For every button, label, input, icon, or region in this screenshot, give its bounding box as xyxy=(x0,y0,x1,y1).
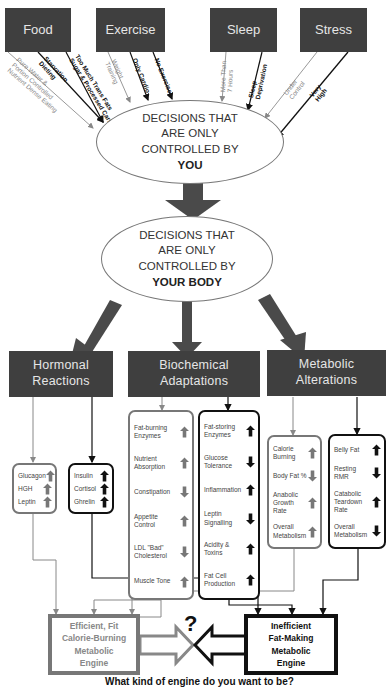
panel-item: Acidity & Toxins xyxy=(204,541,255,557)
engine-good-line4: Engine xyxy=(80,657,108,669)
ellipse-you-line2: ARE ONLY xyxy=(161,126,218,142)
category-hormonal-line2: Reactions xyxy=(32,374,89,390)
panel-item: Leptin xyxy=(18,496,52,508)
panel-hormonal-good: GlucagonHGHLeptin xyxy=(12,463,57,514)
panel-item: Fat-storing Enzymes xyxy=(204,423,255,439)
panel-item-label: Insulin xyxy=(74,472,100,480)
panel-item-label: Resting RMR xyxy=(334,465,372,481)
category-biochemical: Biochemical Adaptations xyxy=(128,351,260,397)
arrow-down-icon xyxy=(246,513,255,525)
panel-hormonal-bad: InsulinCortisolGhrelin xyxy=(68,463,114,514)
ellipse-body-emphasis: YOUR BODY xyxy=(152,275,222,291)
panel-item-label: Body Fat % xyxy=(273,472,308,480)
panel-item: Inflammation xyxy=(204,484,255,496)
panel-item: Overall Metabolism xyxy=(273,523,317,539)
panel-item-label: HGH xyxy=(18,485,43,493)
engine-bad-line3: Metabolic xyxy=(271,645,310,657)
panel-item: Anabolic Growth Rate xyxy=(273,491,317,515)
caption: What kind of engine do you want to be? xyxy=(105,676,294,687)
panel-biochem-bad: Fat-storing EnzymesGlucose ToleranceInfl… xyxy=(198,410,260,600)
ellipse-you-line3: CONTROLLED BY xyxy=(141,142,238,158)
category-biochemical-line1: Biochemical xyxy=(159,358,229,374)
choice-sleep-good: More Than 7 Hours xyxy=(219,61,234,93)
panel-item: Leptin Signalling xyxy=(204,510,255,526)
arrow-up-icon xyxy=(43,483,52,495)
panel-item: Muscle Tone xyxy=(134,576,189,588)
arrow-up-icon xyxy=(246,574,255,586)
engine-good-line1: Efficient, Fit xyxy=(70,620,119,632)
factor-food-label: Food xyxy=(23,22,53,38)
panel-item-label: Calorie Burning xyxy=(273,445,308,461)
panel-item: Calorie Burning xyxy=(273,445,317,461)
panel-metabolic-good: Calorie BurningBody Fat %Anabolic Growth… xyxy=(267,435,322,549)
panel-item-label: Nutrient Absorption xyxy=(134,455,180,471)
arrow-up-icon xyxy=(43,496,52,508)
arrow-up-icon xyxy=(100,483,109,495)
panel-item-label: Cortisol xyxy=(74,485,100,493)
engine-efficient: Efficient, Fit Calorie-Burning Metabolic… xyxy=(48,614,140,675)
panel-item-label: Belly Fat xyxy=(334,446,372,454)
category-biochemical-line2: Adaptations xyxy=(160,374,228,390)
panel-biochem-good: Fat-burning EnzymesNutrient AbsorptionCo… xyxy=(128,410,194,600)
panel-item-label: Catabolic Teardown Rate xyxy=(334,490,372,514)
panel-item: Belly Fat xyxy=(334,444,381,456)
panel-item-label: LDL "Bad" Cholesterol xyxy=(134,544,180,560)
panel-item: Insulin xyxy=(74,470,109,482)
arrow-down-icon xyxy=(246,456,255,468)
panel-item: Nutrient Absorption xyxy=(134,455,189,471)
arrow-up-icon xyxy=(100,470,109,482)
arrow-up-icon xyxy=(308,526,317,538)
arrow-up-icon xyxy=(372,496,381,508)
question-mark: ? xyxy=(184,611,197,637)
engine-good-line3: Metabolic xyxy=(74,645,113,657)
panel-item-label: Anabolic Growth Rate xyxy=(273,491,308,515)
panel-item-label: Muscle Tone xyxy=(134,577,180,585)
factor-sleep: Sleep xyxy=(210,8,277,52)
panel-item-label: Fat-burning Enzymes xyxy=(134,424,180,440)
arrow-down-icon xyxy=(308,470,317,482)
panel-item-label: Leptin xyxy=(18,498,43,506)
ellipse-body-line3: CONTROLLED BY xyxy=(138,259,235,275)
panel-item: HGH xyxy=(18,483,52,495)
arrow-up-icon xyxy=(100,496,109,508)
panel-item: Body Fat % xyxy=(273,470,317,482)
arrow-up-icon xyxy=(246,425,255,437)
arrow-up-icon xyxy=(180,426,189,438)
arrow-up-icon xyxy=(180,576,189,588)
panel-metabolic-bad: Belly FatResting RMRCatabolic Teardown R… xyxy=(328,434,386,549)
choice-label: 7 Hours xyxy=(226,61,234,93)
engine-bad-line2: Fat-Making xyxy=(269,632,314,644)
arrow-down-icon xyxy=(372,467,381,479)
arrow-down-icon xyxy=(180,486,189,498)
arrow-down-icon xyxy=(372,525,381,537)
ellipse-body-line1: DECISIONS THAT xyxy=(139,228,234,244)
panel-item-label: Fat Cell Production xyxy=(204,572,246,588)
category-hormonal: Hormonal Reactions xyxy=(9,351,113,397)
panel-item: Appetite Control xyxy=(134,513,189,529)
panel-item: Fat Cell Production xyxy=(204,572,255,588)
panel-item-label: Glucose Tolerance xyxy=(204,454,246,470)
panel-item: Cortisol xyxy=(74,483,109,495)
ellipse-you-line1: DECISIONS THAT xyxy=(142,111,237,127)
panel-item-label: Overall Metabolism xyxy=(334,523,372,539)
panel-item-label: Leptin Signalling xyxy=(204,510,246,526)
panel-item-label: Constipation xyxy=(134,488,180,496)
panel-item-label: Inflammation xyxy=(204,486,246,494)
panel-item-label: Acidity & Toxins xyxy=(204,541,246,557)
factor-exercise-label: Exercise xyxy=(106,22,156,38)
ellipse-controlled-by-body: DECISIONS THAT ARE ONLY CONTROLLED BY YO… xyxy=(101,216,273,302)
panel-item-label: Glucagon xyxy=(18,472,46,480)
panel-item: LDL "Bad" Cholesterol xyxy=(134,544,189,560)
ellipse-controlled-by-you: DECISIONS THAT ARE ONLY CONTROLLED BY YO… xyxy=(96,100,284,184)
arrow-down-icon xyxy=(180,546,189,558)
engine-inefficient: Inefficient Fat-Making Metabolic Engine xyxy=(244,614,338,675)
panel-item: Glucose Tolerance xyxy=(204,454,255,470)
panel-item-label: Appetite Control xyxy=(134,513,180,529)
ellipse-you-emphasis: YOU xyxy=(178,158,203,174)
panel-item: Glucagon xyxy=(18,470,52,482)
arrow-up-icon xyxy=(180,457,189,469)
panel-item: Ghrelin xyxy=(74,496,109,508)
arrow-up-icon xyxy=(46,470,55,482)
ellipse-body-line2: ARE ONLY xyxy=(158,243,215,259)
panel-item-label: Overall Metabolism xyxy=(273,523,308,539)
